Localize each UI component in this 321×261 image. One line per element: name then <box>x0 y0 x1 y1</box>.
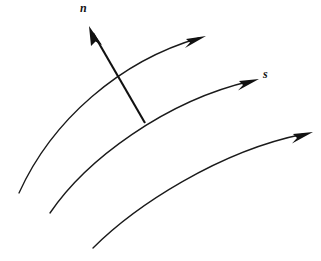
streamline-figure: n s <box>0 0 321 261</box>
streamline-middle-arrowhead-icon <box>238 79 259 91</box>
streamline-bottom <box>93 132 313 248</box>
normal-vector-arrowhead-icon <box>89 26 102 46</box>
streamline-middle <box>50 79 259 213</box>
normal-vector-label: n <box>80 2 87 14</box>
normal-vector-shaft <box>93 33 145 123</box>
streamline-middle-path <box>50 81 251 213</box>
tangent-label: s <box>263 68 268 80</box>
streamline-bottom-path <box>93 134 304 248</box>
figure-canvas <box>0 0 321 261</box>
normal-vector <box>89 26 145 123</box>
streamline-top <box>19 36 206 193</box>
streamline-bottom-arrowhead-icon <box>292 132 313 144</box>
